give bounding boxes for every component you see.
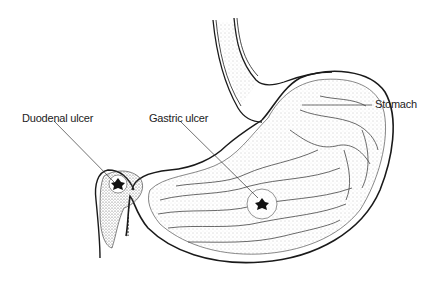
stomach-body — [126, 71, 393, 262]
gastric-ulcer — [247, 189, 277, 219]
duodenal-leader-line — [54, 121, 114, 182]
stomach-illustration — [0, 0, 440, 286]
duodenum — [96, 170, 143, 258]
label-gastric-ulcer: Gastric ulcer — [149, 112, 208, 124]
label-duodenal-ulcer: Duodenal ulcer — [22, 112, 93, 124]
label-stomach: Stomach — [375, 98, 417, 110]
